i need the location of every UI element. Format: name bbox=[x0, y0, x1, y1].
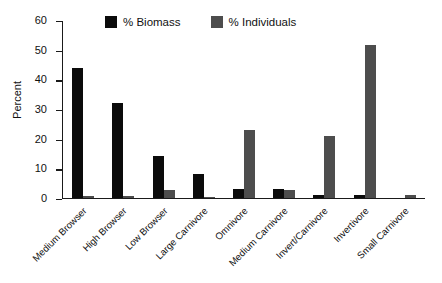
bar-groups bbox=[63, 21, 425, 198]
bar-group bbox=[63, 21, 103, 198]
bar-individuals bbox=[123, 196, 134, 197]
y-axis-tick: 0 bbox=[56, 199, 62, 200]
bar-biomass bbox=[354, 195, 365, 198]
bar-individuals bbox=[244, 130, 255, 198]
bar-biomass bbox=[193, 174, 204, 198]
x-axis-tick-label: Omnivore bbox=[213, 205, 250, 242]
y-axis-tick-label: 0 bbox=[41, 192, 47, 205]
bar-biomass bbox=[273, 189, 284, 198]
y-axis-tick: 40 bbox=[56, 80, 62, 81]
y-axis-title: Percent bbox=[8, 0, 26, 200]
bar-group bbox=[184, 21, 224, 198]
x-axis-tick-labels: Medium BrowserHigh BrowserLow BrowserLar… bbox=[63, 201, 425, 281]
bar-biomass bbox=[313, 195, 324, 198]
bar-group bbox=[264, 21, 304, 198]
bar-chart-figure: % Biomass % Individuals Percent 01020304… bbox=[0, 0, 442, 283]
bar-individuals bbox=[164, 190, 175, 197]
bar-biomass bbox=[112, 103, 123, 197]
bar-individuals bbox=[365, 45, 376, 198]
y-axis-tick-label: 50 bbox=[35, 44, 47, 57]
bar-individuals bbox=[405, 195, 416, 198]
bar-group bbox=[103, 21, 143, 198]
bar-biomass bbox=[72, 68, 83, 198]
bar-individuals bbox=[83, 196, 94, 197]
bar-biomass bbox=[153, 156, 164, 197]
y-axis-tick: 20 bbox=[56, 140, 62, 141]
x-axis-tick-label: Invertivore bbox=[331, 205, 370, 244]
x-axis-line bbox=[62, 198, 425, 199]
y-axis-title-text: Percent bbox=[11, 81, 23, 119]
y-axis-tick-label: 60 bbox=[35, 14, 47, 27]
bar-group bbox=[143, 21, 183, 198]
bar-individuals bbox=[284, 190, 295, 197]
y-axis-tick: 50 bbox=[56, 51, 62, 52]
bar-biomass bbox=[233, 189, 244, 198]
bar-group bbox=[345, 21, 385, 198]
bar-group bbox=[385, 21, 425, 198]
y-axis-tick: 10 bbox=[56, 169, 62, 170]
bar-individuals bbox=[324, 136, 335, 198]
bar-group bbox=[304, 21, 344, 198]
y-axis-tick: 60 bbox=[56, 21, 62, 22]
y-axis-tick-label: 30 bbox=[35, 103, 47, 116]
y-axis-tick: 30 bbox=[56, 110, 62, 111]
y-axis-tick-label: 10 bbox=[35, 162, 47, 175]
y-axis-tick-label: 20 bbox=[35, 133, 47, 146]
bar-group bbox=[224, 21, 264, 198]
x-axis-tick-label: Medium Browser bbox=[30, 205, 89, 264]
plot-area: 0102030405060 bbox=[62, 21, 425, 199]
bar-individuals bbox=[204, 197, 215, 198]
y-axis-tick-label: 40 bbox=[35, 73, 47, 86]
